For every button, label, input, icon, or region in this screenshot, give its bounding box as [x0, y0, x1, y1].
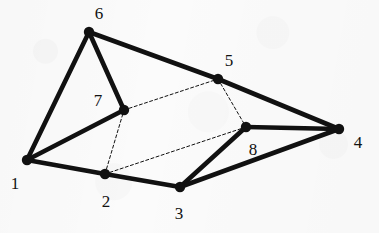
- node-label-5: 5: [225, 52, 234, 69]
- graph-node-8: [241, 122, 251, 132]
- node-label-4: 4: [354, 134, 363, 151]
- node-label-3: 3: [175, 205, 184, 222]
- node-label-6: 6: [95, 5, 104, 22]
- graph-edge-3-8: [180, 127, 246, 187]
- graph-canvas: [0, 0, 379, 233]
- graph-node-6: [84, 27, 94, 37]
- graph-figure: 12345678: [0, 0, 379, 233]
- graph-node-3: [175, 182, 185, 192]
- node-label-8: 8: [249, 141, 258, 158]
- graph-node-4: [334, 124, 344, 134]
- graph-edge-8-4: [246, 127, 339, 129]
- graph-edge-1-6: [27, 32, 89, 160]
- graph-edge-8-2: [105, 127, 246, 174]
- graph-node-2: [100, 169, 110, 179]
- graph-edge-7-5: [124, 79, 218, 110]
- graph-edge-3-4: [180, 129, 339, 187]
- node-label-7: 7: [94, 92, 103, 109]
- dashed-edge-group: [105, 79, 246, 174]
- graph-edge-2-3: [105, 174, 180, 187]
- graph-edge-5-4: [218, 79, 339, 129]
- graph-edge-1-2: [27, 160, 105, 174]
- solid-edge-group: [27, 32, 339, 187]
- node-label-1: 1: [11, 175, 20, 192]
- node-label-2: 2: [102, 193, 111, 210]
- graph-node-1: [22, 155, 32, 165]
- graph-node-5: [213, 74, 223, 84]
- graph-node-7: [119, 105, 129, 115]
